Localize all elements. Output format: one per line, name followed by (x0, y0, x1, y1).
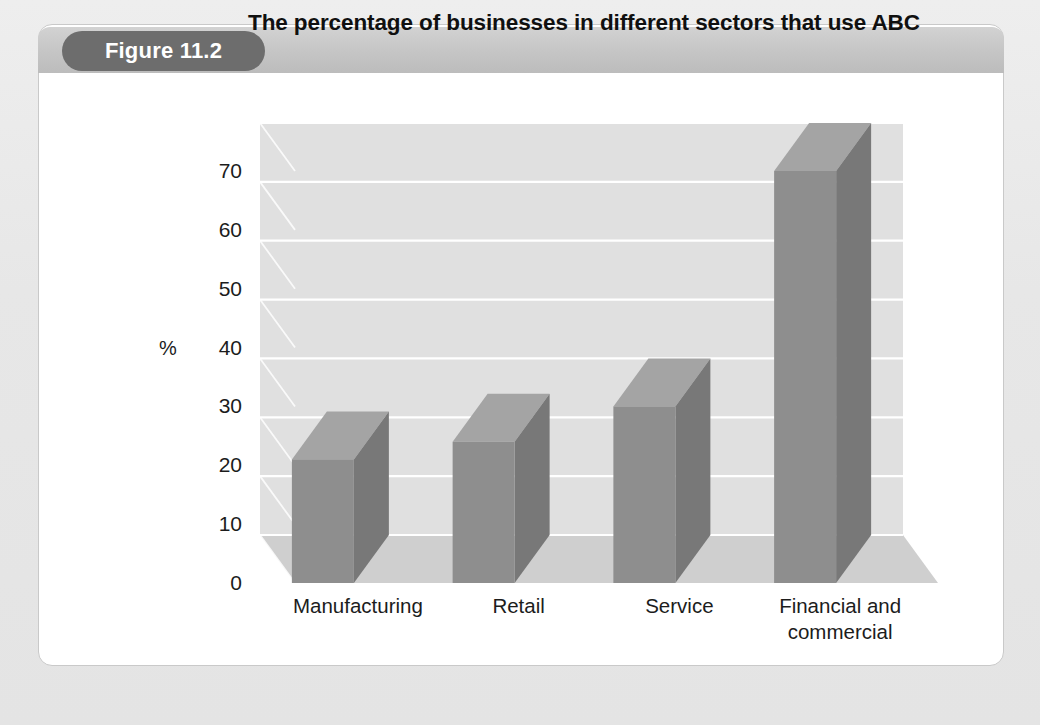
bar-front-face (613, 406, 675, 583)
category-label-3: Service (645, 594, 713, 617)
bar-2 (453, 394, 550, 583)
figure-number-badge: Figure 11.2 (62, 31, 265, 71)
bar-4 (774, 123, 871, 583)
category-label-4: Financial andcommercial (779, 594, 901, 643)
y-tick-label: 30 (219, 394, 242, 417)
y-tick-label: 40 (219, 336, 242, 359)
y-axis-title: % (159, 337, 177, 359)
y-tick-label: 20 (219, 453, 242, 476)
y-tick-label: 10 (219, 512, 242, 535)
figure-title: The percentage of businesses in differen… (248, 0, 920, 46)
bar-side-face (836, 123, 871, 583)
y-tick-label: 0 (230, 571, 242, 594)
y-tick-label: 70 (219, 159, 242, 182)
category-label-1: Manufacturing (293, 594, 423, 617)
bar-chart: 010203040506070%ManufacturingRetailServi… (38, 73, 1004, 666)
category-label-2: Retail (492, 594, 544, 617)
bar-3 (613, 358, 710, 583)
bar-front-face (774, 171, 836, 583)
bar-front-face (453, 442, 515, 583)
chart-canvas: 010203040506070%ManufacturingRetailServi… (38, 73, 1004, 666)
bar-front-face (292, 459, 354, 583)
y-tick-label: 50 (219, 277, 242, 300)
y-tick-label: 60 (219, 218, 242, 241)
